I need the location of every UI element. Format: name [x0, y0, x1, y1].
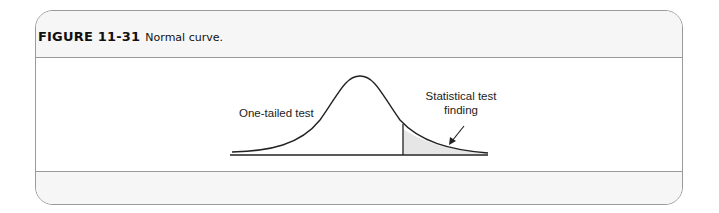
left-label: One-tailed test [239, 107, 315, 119]
arrow-shaft [452, 126, 464, 141]
right-label-line2: finding [444, 104, 478, 116]
normal-curve-diagram: One-tailed test Statistical test finding [0, 0, 719, 213]
right-label-line1: Statistical test [426, 90, 498, 102]
